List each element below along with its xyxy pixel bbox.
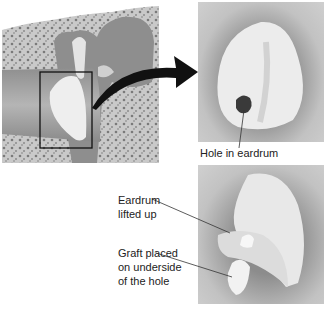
eardrum-illustration	[198, 2, 324, 142]
graft-label-line3: of the hole	[118, 274, 169, 288]
graft-label-line2: on underside	[118, 260, 182, 274]
lifted-label-line1: Eardrum	[118, 193, 160, 207]
hole-leader-line	[230, 108, 250, 150]
graft-label-line1: Graft placed	[118, 246, 178, 260]
curved-arrow-icon	[88, 52, 200, 112]
lifted-label-line2: lifted up	[118, 207, 157, 221]
hole-label: Hole in eardrum	[200, 146, 278, 160]
eardrum-hole-panel	[198, 2, 324, 142]
